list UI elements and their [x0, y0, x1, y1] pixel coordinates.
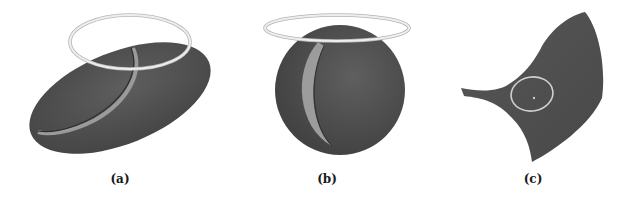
- panel-b: (b): [220, 0, 420, 203]
- saddle-body: [461, 12, 603, 162]
- caption-b: (b): [317, 172, 337, 186]
- caption-a: (a): [110, 172, 129, 186]
- panel-a: (a): [0, 0, 220, 203]
- center-point: [533, 97, 535, 99]
- caption-c: (c): [524, 172, 543, 186]
- panel-c: (c): [420, 0, 627, 203]
- sphere-body: [275, 25, 405, 155]
